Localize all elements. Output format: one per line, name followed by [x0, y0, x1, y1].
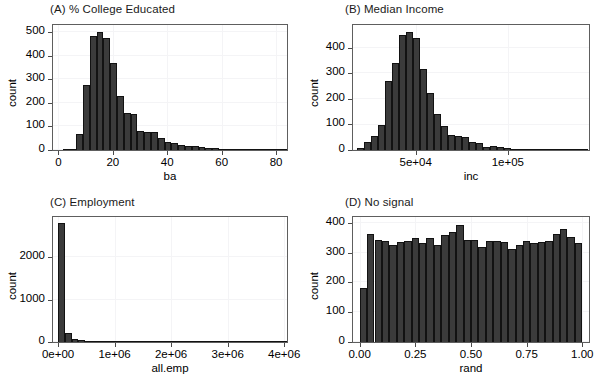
- histogram-bar: [456, 225, 463, 342]
- histogram-figure: (A) % College Educated010020030040050002…: [0, 0, 601, 385]
- histogram-bar: [478, 247, 485, 342]
- histogram-bar: [516, 245, 523, 342]
- panel-d-xtick-mark: [471, 343, 472, 347]
- histogram-bar: [397, 242, 404, 342]
- histogram-bar: [441, 235, 448, 342]
- histogram-bar: [530, 243, 537, 342]
- histogram-bar: [449, 232, 456, 342]
- histogram-bar: [575, 243, 582, 342]
- panel-d-yaxis-label: count: [308, 266, 320, 306]
- histogram-bar: [567, 237, 574, 342]
- histogram-bar: [501, 242, 508, 342]
- histogram-bar: [434, 245, 441, 342]
- histogram-bar: [508, 249, 515, 342]
- panel-d-bars: [353, 217, 589, 342]
- panel-d-ytick-label: 300: [326, 245, 345, 257]
- histogram-bar: [560, 229, 567, 342]
- histogram-bar: [486, 241, 493, 342]
- panel-d-plot-area: [352, 216, 590, 343]
- panel-d-xtick-mark: [415, 343, 416, 347]
- histogram-bar: [382, 241, 389, 342]
- panel-d-xtick-label: 1.00: [542, 348, 601, 360]
- panel-d-ytick-label: 0: [339, 334, 345, 346]
- histogram-bar: [360, 288, 367, 342]
- panel-d-title: (D) No signal: [345, 196, 413, 208]
- panel-d-ytick-label: 400: [326, 215, 345, 227]
- histogram-bar: [471, 240, 478, 342]
- histogram-bar: [404, 241, 411, 342]
- histogram-bar: [553, 234, 560, 342]
- panel-d-ytick-mark: [348, 253, 352, 254]
- histogram-bar: [419, 243, 426, 342]
- panel-d-ytick-mark: [348, 342, 352, 343]
- histogram-bar: [464, 240, 471, 342]
- histogram-bar: [493, 241, 500, 342]
- histogram-bar: [426, 238, 433, 342]
- histogram-bar: [538, 242, 545, 342]
- panel-d-xtick-mark: [360, 343, 361, 347]
- panel-d-xtick-mark: [582, 343, 583, 347]
- panel-d-ytick-label: 200: [326, 274, 345, 286]
- panel-d: (D) No signal01002003004000.000.250.500.…: [0, 0, 601, 385]
- panel-d-ytick-label: 100: [326, 304, 345, 316]
- panel-d-ytick-mark: [348, 223, 352, 224]
- panel-d-ytick-mark: [348, 312, 352, 313]
- panel-d-ytick-mark: [348, 282, 352, 283]
- histogram-bar: [375, 240, 382, 342]
- histogram-bar: [389, 245, 396, 342]
- panel-d-xtick-mark: [527, 343, 528, 347]
- histogram-bar: [545, 241, 552, 342]
- histogram-bar: [412, 238, 419, 342]
- histogram-bar: [367, 234, 374, 342]
- histogram-bar: [523, 241, 530, 342]
- panel-d-xaxis-label: rand: [421, 362, 521, 374]
